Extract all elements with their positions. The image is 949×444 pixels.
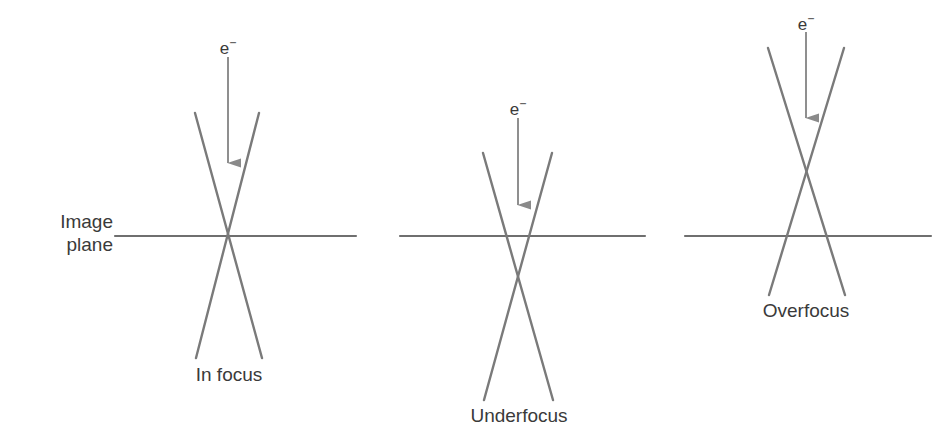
electron-charge-superscript-overfocus: − (807, 12, 814, 26)
caption-overfocus: Overfocus (763, 299, 850, 322)
caption-in-focus: In focus (196, 363, 263, 386)
electron-label-in-focus: e− (220, 32, 237, 60)
image-plane-label-line2: plane (67, 234, 114, 255)
panel-in-focus (115, 57, 356, 358)
image-plane-label-line1: Image (60, 211, 113, 232)
diagram-canvas (0, 0, 949, 444)
caption-underfocus: Underfocus (470, 404, 567, 427)
electron-label-underfocus: e− (510, 93, 527, 121)
panel-underfocus (400, 118, 645, 400)
image-plane-label: Imageplane (60, 210, 113, 256)
optical-focus-diagram: Imageplane e− e− e− In focus Underfocus … (0, 0, 949, 444)
electron-charge-superscript-in-focus: − (229, 36, 236, 50)
electron-label-overfocus: e− (798, 8, 815, 36)
electron-charge-superscript-underfocus: − (519, 97, 526, 111)
panel-overfocus (685, 32, 931, 295)
